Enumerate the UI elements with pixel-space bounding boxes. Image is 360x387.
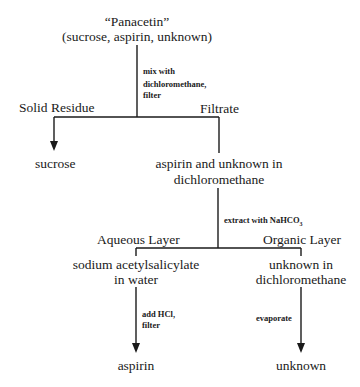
aqueous-product-1: sodium acetylsalicylate bbox=[66, 257, 206, 272]
step1-reagent-3: filter bbox=[143, 90, 161, 100]
step2-reagent: extract with NaHCO3 bbox=[224, 215, 303, 229]
aspirin-product: aspirin bbox=[96, 358, 176, 373]
step3-left-reagent-1: add HCl, bbox=[142, 309, 175, 319]
start-subtitle: (sucrose, aspirin, unknown) bbox=[57, 29, 217, 44]
filtrate-product-1: aspirin and unknown in bbox=[149, 156, 289, 171]
step1-reagent-2: dichloromethane, bbox=[143, 79, 206, 89]
unknown-product: unknown bbox=[261, 358, 341, 373]
aqueous-layer-label: Aqueous Layer bbox=[97, 232, 180, 247]
arrow-head-unknown bbox=[297, 343, 305, 353]
organic-product-2: dichloromethane bbox=[246, 272, 356, 287]
start-title: “Panacetin” bbox=[87, 14, 187, 29]
arrow-head-aspirin bbox=[132, 343, 140, 353]
flowchart-lines bbox=[0, 0, 360, 387]
aqueous-product-2: in water bbox=[66, 272, 206, 287]
step3-left-reagent-2: filter bbox=[142, 320, 160, 330]
step3-right-reagent: evaporate bbox=[256, 313, 292, 323]
organic-product-1: unknown in bbox=[246, 257, 356, 272]
sucrose-product: sucrose bbox=[35, 156, 76, 171]
arrow-head-sucrose bbox=[50, 141, 58, 151]
filtrate-product-2: dichloromethane bbox=[149, 172, 289, 187]
organic-layer-label: Organic Layer bbox=[263, 232, 341, 247]
filtrate-label: Filtrate bbox=[200, 101, 239, 116]
step1-reagent-1: mix with bbox=[143, 66, 175, 76]
solid-residue-label: Solid Residue bbox=[19, 100, 94, 115]
